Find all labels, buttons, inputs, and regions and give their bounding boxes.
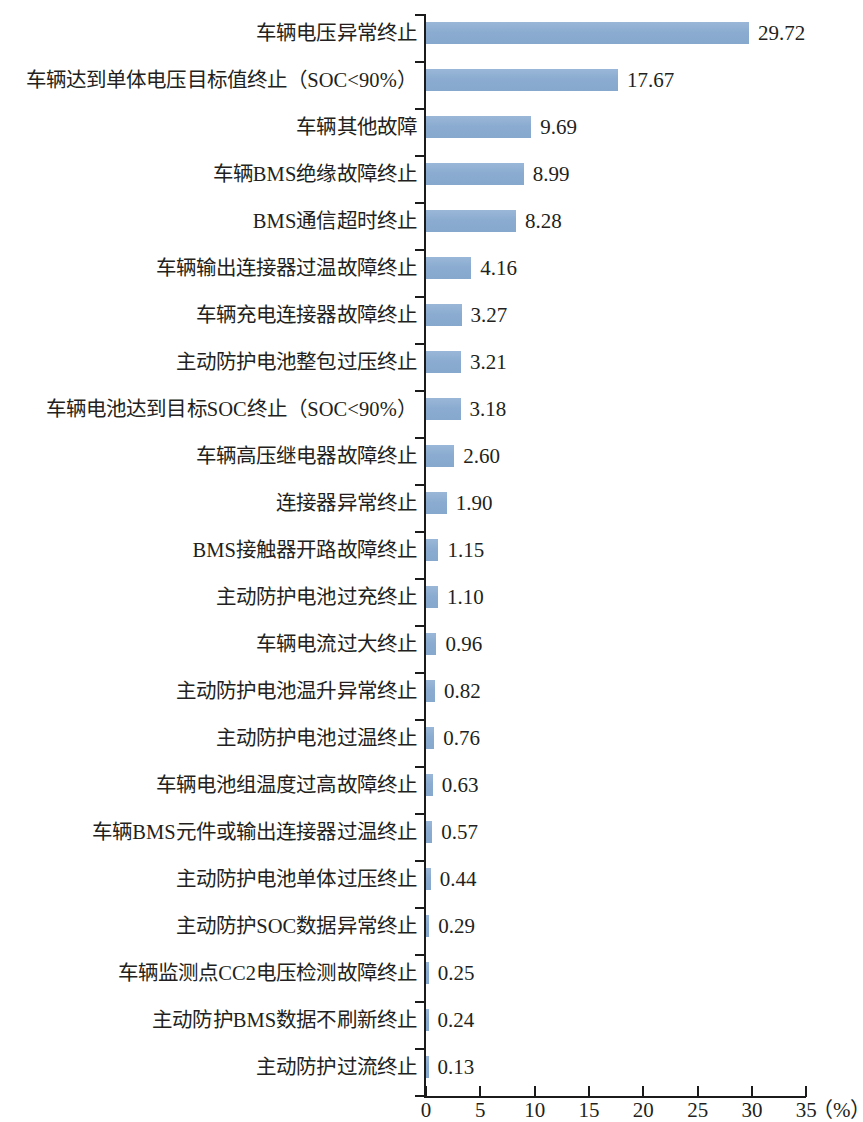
x-axis-tick-label: 15	[559, 1098, 619, 1122]
bar-value-label: 1.90	[456, 486, 493, 520]
bar-row: 车辆达到单体电压目标值终止（SOC<90%）17.67	[0, 63, 863, 97]
bar-value-label: 1.15	[447, 533, 484, 567]
bar	[426, 962, 429, 984]
bar-value-label: 0.25	[438, 956, 475, 990]
bar-row: 车辆电流过大终止0.96	[0, 627, 863, 661]
bar-row: 主动防护电池温升异常终止0.82	[0, 674, 863, 708]
bar-category-label: 车辆充电连接器故障终止	[196, 298, 417, 332]
bar-category-label: 车辆BMS元件或输出连接器过温终止	[92, 815, 417, 849]
x-axis-tick	[425, 1086, 427, 1097]
x-axis-tick	[751, 1086, 753, 1097]
bar-row: 车辆输出连接器过温故障终止4.16	[0, 251, 863, 285]
x-axis-unit-label: （%）	[812, 1098, 863, 1122]
x-axis-tick-label: 10	[505, 1098, 565, 1122]
bar-row: BMS接触器开路故障终止1.15	[0, 533, 863, 567]
bar	[426, 1056, 429, 1078]
bar-row: 车辆电压异常终止29.72	[0, 16, 863, 50]
bar-category-label: BMS通信超时终止	[253, 204, 417, 238]
bar-row: 主动防护SOC数据异常终止0.29	[0, 909, 863, 943]
bar-category-label: 车辆高压继电器故障终止	[196, 439, 417, 473]
bar-value-label: 29.72	[758, 16, 805, 50]
bar-category-label: 车辆输出连接器过温故障终止	[156, 251, 417, 285]
bar	[426, 257, 471, 279]
x-axis-tick	[642, 1086, 644, 1097]
bar	[426, 492, 447, 514]
bar-category-label: 车辆电池组温度过高故障终止	[156, 768, 417, 802]
bar	[426, 351, 461, 373]
x-axis-tick-label: 20	[613, 1098, 673, 1122]
bar	[426, 163, 524, 185]
x-axis-tick	[697, 1086, 699, 1097]
bar-category-label: 连接器异常终止	[276, 486, 417, 520]
bar-row: 车辆BMS元件或输出连接器过温终止0.57	[0, 815, 863, 849]
bar-value-label: 9.69	[540, 110, 577, 144]
bar	[426, 398, 461, 420]
bar-row: 车辆电池组温度过高故障终止0.63	[0, 768, 863, 802]
bar-category-label: 主动防护电池过充终止	[216, 580, 417, 614]
bar	[426, 680, 435, 702]
bar	[426, 304, 462, 326]
bar	[426, 22, 749, 44]
bar-row: 主动防护BMS数据不刷新终止0.24	[0, 1003, 863, 1037]
bar-value-label: 3.18	[470, 392, 507, 426]
bar-row: 车辆监测点CC2电压检测故障终止0.25	[0, 956, 863, 990]
bar-category-label: 车辆电流过大终止	[256, 627, 417, 661]
bar-value-label: 0.44	[440, 862, 477, 896]
bar-row: 主动防护电池过充终止1.10	[0, 580, 863, 614]
bar-value-label: 4.16	[480, 251, 517, 285]
bar-value-label: 0.13	[438, 1050, 475, 1084]
bar-category-label: 主动防护电池过温终止	[216, 721, 417, 755]
x-axis-tick	[479, 1086, 481, 1097]
bar-category-label: 主动防护电池单体过压终止	[176, 862, 417, 896]
bar-row: 车辆电池达到目标SOC终止（SOC<90%）3.18	[0, 392, 863, 426]
bar-value-label: 2.60	[463, 439, 500, 473]
bar-category-label: 主动防护电池温升异常终止	[176, 674, 417, 708]
bar	[426, 445, 454, 467]
bar-category-label: 主动防护电池整包过压终止	[176, 345, 417, 379]
bar-value-label: 0.76	[443, 721, 480, 755]
bar-row: 主动防护电池单体过压终止0.44	[0, 862, 863, 896]
bar-chart: 车辆电压异常终止29.72车辆达到单体电压目标值终止（SOC<90%）17.67…	[0, 0, 863, 1122]
bar-row: 主动防护电池整包过压终止3.21	[0, 345, 863, 379]
y-axis-tick	[415, 1095, 425, 1097]
bar-value-label: 0.96	[445, 627, 482, 661]
x-axis-tick	[588, 1086, 590, 1097]
bar-category-label: 主动防护SOC数据异常终止	[176, 909, 417, 943]
bar-value-label: 17.67	[627, 63, 674, 97]
bar-value-label: 1.10	[447, 580, 484, 614]
bar	[426, 210, 516, 232]
bar	[426, 915, 429, 937]
bar-value-label: 0.63	[442, 768, 479, 802]
bar	[426, 727, 434, 749]
x-axis-tick-label: 5	[450, 1098, 510, 1122]
bar-value-label: 0.24	[438, 1003, 475, 1037]
bar	[426, 1009, 429, 1031]
bar	[426, 868, 431, 890]
bar-row: 车辆充电连接器故障终止3.27	[0, 298, 863, 332]
bar-row: 车辆BMS绝缘故障终止8.99	[0, 157, 863, 191]
bar-value-label: 0.82	[444, 674, 481, 708]
bar-category-label: BMS接触器开路故障终止	[192, 533, 417, 567]
bar-category-label: 车辆BMS绝缘故障终止	[213, 157, 417, 191]
bar-category-label: 车辆监测点CC2电压检测故障终止	[118, 956, 417, 990]
bar	[426, 774, 433, 796]
x-axis-tick	[805, 1086, 807, 1097]
bar	[426, 69, 618, 91]
x-axis-tick-label: 25	[668, 1098, 728, 1122]
x-axis-tick-label: 0	[396, 1098, 456, 1122]
bar-row: 连接器异常终止1.90	[0, 486, 863, 520]
x-axis-tick-label: 30	[722, 1098, 782, 1122]
bar-value-label: 8.99	[533, 157, 570, 191]
bar-value-label: 0.57	[441, 815, 478, 849]
bar-value-label: 8.28	[525, 204, 562, 238]
bar-value-label: 3.27	[471, 298, 508, 332]
bar-row: 车辆其他故障9.69	[0, 110, 863, 144]
bar-row: 主动防护电池过温终止0.76	[0, 721, 863, 755]
bar-row: 车辆高压继电器故障终止2.60	[0, 439, 863, 473]
bar	[426, 586, 438, 608]
bar-category-label: 主动防护BMS数据不刷新终止	[152, 1003, 417, 1037]
x-axis-tick	[534, 1086, 536, 1097]
plot-area: 车辆电压异常终止29.72车辆达到单体电压目标值终止（SOC<90%）17.67…	[0, 0, 863, 1122]
bar-category-label: 车辆电池达到目标SOC终止（SOC<90%）	[46, 392, 417, 426]
bar-row: BMS通信超时终止8.28	[0, 204, 863, 238]
